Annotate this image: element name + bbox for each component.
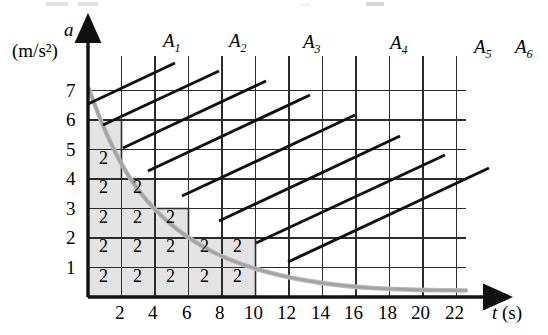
line-label-a6: A6 (515, 37, 533, 60)
x-tick-8: 8 (215, 303, 225, 322)
cell-value: 2 (99, 178, 108, 196)
plot-canvas (0, 0, 548, 335)
cell-value: 2 (99, 208, 108, 226)
y-axis-unit: (m/s²) (12, 41, 58, 60)
x-axis-unit: (s) (502, 303, 522, 322)
y-tick-3: 3 (66, 199, 76, 218)
line-label-a6-sub: 6 (527, 47, 533, 61)
line-label-a2: A2 (229, 31, 247, 54)
x-tick-2: 2 (115, 303, 125, 322)
y-tick-6: 6 (66, 110, 76, 129)
line-label-a2-sub: 2 (241, 41, 247, 55)
x-tick-18: 18 (378, 303, 397, 322)
line-label-a1-name: A (163, 30, 175, 51)
cell-value: 2 (200, 267, 209, 285)
cell-value: 2 (99, 237, 108, 255)
line-label-a1-sub: 1 (175, 41, 181, 55)
cell-value: 2 (133, 237, 142, 255)
x-axis-symbol: t (492, 303, 497, 322)
line-label-a3-name: A (303, 31, 315, 52)
line-label-a5-sub: 5 (486, 47, 492, 61)
acceleration-time-graph-figure: a (m/s²) 7 6 5 4 3 2 1 2 4 6 8 10 12 14 … (0, 0, 548, 335)
line-label-a1: A1 (163, 31, 181, 54)
cell-value: 2 (133, 178, 142, 196)
y-tick-5: 5 (66, 140, 76, 159)
line-label-a4-sub: 4 (402, 43, 408, 57)
cell-value: 2 (166, 208, 175, 226)
cell-value: 2 (166, 237, 175, 255)
line-label-a2-name: A (229, 30, 241, 51)
x-tick-6: 6 (182, 303, 192, 322)
y-tick-2: 2 (66, 228, 76, 247)
cell-value: 2 (99, 267, 108, 285)
cell-value: 2 (133, 208, 142, 226)
x-tick-14: 14 (311, 303, 330, 322)
cell-value: 2 (99, 149, 108, 167)
x-tick-10: 10 (244, 303, 263, 322)
line-label-a3-sub: 3 (315, 42, 321, 56)
x-tick-20: 20 (411, 303, 430, 322)
line-label-a4-name: A (390, 32, 402, 53)
cell-value: 2 (233, 237, 242, 255)
y-tick-4: 4 (66, 169, 76, 188)
cell-value: 2 (166, 267, 175, 285)
x-tick-4: 4 (148, 303, 158, 322)
y-axis-symbol: a (64, 20, 74, 39)
x-tick-16: 16 (344, 303, 363, 322)
line-label-a4: A4 (390, 33, 408, 56)
line-label-a6-name: A (515, 36, 527, 57)
cell-value: 2 (200, 237, 209, 255)
cell-value: 2 (233, 267, 242, 285)
line-label-a5-name: A (474, 36, 486, 57)
x-tick-22: 22 (445, 303, 464, 322)
cell-value: 2 (133, 267, 142, 285)
line-label-a5: A5 (474, 37, 492, 60)
y-tick-7: 7 (66, 81, 76, 100)
x-tick-12: 12 (277, 303, 296, 322)
y-tick-1: 1 (66, 258, 76, 277)
line-label-a3: A3 (303, 32, 321, 55)
